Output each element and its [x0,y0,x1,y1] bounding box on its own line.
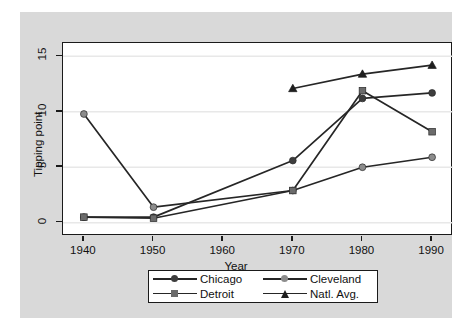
y-axis-tick [56,110,62,112]
x-axis-tick [82,236,84,241]
y-axis-tick-label: 10 [36,98,48,122]
x-axis-tick-label: 1940 [60,244,106,256]
plot-area [63,43,453,236]
data-point [150,204,157,211]
legend-swatch-detroit [153,288,197,300]
data-point [359,164,366,171]
legend-label-detroit: Detroit [200,288,234,300]
x-axis-tick [221,236,223,241]
x-axis-tick [291,236,293,241]
x-axis-tick-label: 1960 [199,244,245,256]
series-line-cleveland [84,114,432,207]
y-axis-tick-label: 0 [36,209,48,233]
x-axis-tick-label: 1980 [338,244,384,256]
x-axis-tick-label: 1970 [269,244,315,256]
y-axis-tick [56,221,62,223]
y-axis-tick [56,55,62,57]
y-axis-tick [56,165,62,167]
legend-item-chicago: Chicago [153,273,263,285]
legend-label-cleveland: Cleveland [310,273,361,285]
data-point [429,128,436,135]
data-point [359,95,366,102]
data-point [429,90,436,97]
x-axis-tick [430,236,432,241]
legend-swatch-natl-avg [263,288,307,300]
legend-label-chicago: Chicago [200,273,242,285]
chart-figure: Tipping point Year Chicago Cleveland [20,12,452,318]
y-axis-tick-label: 5 [36,153,48,177]
x-axis-tick [152,236,154,241]
series-line-detroit [84,91,432,219]
x-axis-tick [361,236,363,241]
legend-item-cleveland: Cleveland [263,273,373,285]
legend-item-natl-avg: Natl. Avg. [263,288,373,300]
x-axis-tick-label: 1990 [408,244,454,256]
data-point [150,215,157,222]
data-point [428,61,436,68]
y-axis-tick-label: 15 [36,42,48,66]
legend-swatch-chicago [153,273,197,285]
legend-label-natl-avg: Natl. Avg. [310,288,359,300]
data-point [429,154,436,161]
plot-panel [62,42,452,235]
data-point [289,157,296,164]
data-point [80,111,87,118]
chart-legend: Chicago Cleveland Detroit Natl. Avg. [148,270,378,303]
data-point [359,87,366,94]
legend-item-detroit: Detroit [153,288,263,300]
data-point [290,187,297,194]
legend-swatch-cleveland [263,273,307,285]
data-point [81,214,88,221]
x-axis-tick-label: 1950 [130,244,176,256]
